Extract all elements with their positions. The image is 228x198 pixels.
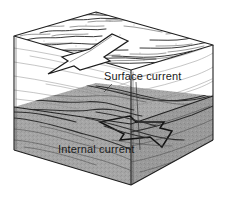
internal-current-label: Internal current [58, 143, 134, 155]
diagram-canvas: Surface current Internal current [0, 0, 228, 198]
surface-current-label: Surface current [104, 70, 181, 82]
ocean-layer-diagram: Surface current Internal current [0, 0, 228, 198]
